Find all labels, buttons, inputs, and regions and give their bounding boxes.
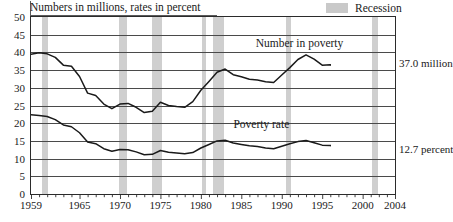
chart-title: Numbers in millions, rates in percent [30,1,201,13]
y-tick-label: 20 [14,117,25,129]
y-tick-label: 15 [14,135,25,147]
y-tick-label: 40 [14,46,25,58]
y-tick-label: 45 [14,29,25,41]
legend-label-recession: Recession [355,2,402,14]
poverty-chart: Numbers in millions, rates in percent Re… [0,0,453,222]
y-tick-label: 50 [14,11,25,23]
recession-swatch-icon [326,3,348,13]
plot-inner: Number in poverty Poverty rate [31,17,395,194]
annotation-end-value-lower: 12.7 percent [399,143,453,155]
legend: Recession [326,2,402,14]
annotation-end-value-upper: 37.0 million [399,57,453,69]
x-tick-label: 2000 [352,199,374,211]
y-tick-label: 35 [14,64,25,76]
y-tick-label: 25 [14,100,25,112]
y-tick-label: 30 [14,82,25,94]
x-tick-label: 1995 [311,199,333,211]
x-tick-label: 1980 [190,199,212,211]
x-tick-label: 1959 [20,199,42,211]
x-tick-label: 2004 [384,199,406,211]
y-tick-label: 5 [20,170,26,182]
y-tick-label: 10 [14,153,25,165]
plot-area: Number in poverty Poverty rate [30,16,396,195]
series-label-poverty-rate: Poverty rate [233,118,289,130]
x-tick-label: 1970 [109,199,131,211]
x-tick-label: 1985 [230,199,252,211]
y-axis-labels: 05101520253035404550 [0,16,27,195]
x-axis-labels: 1959196519701975198019851990199520002004 [30,199,396,215]
x-tick-label: 1990 [271,199,293,211]
x-tick-label: 1965 [69,199,91,211]
gridline [31,176,395,177]
series-label-number-in-poverty: Number in poverty [256,37,344,49]
x-tick-label: 1975 [149,199,171,211]
